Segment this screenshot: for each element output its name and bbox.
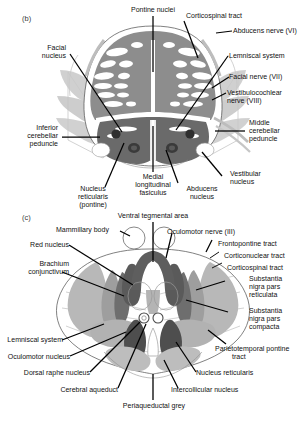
label-snpr-line2: nigra pars bbox=[249, 283, 280, 291]
label-snpr-line1: Substantia bbox=[249, 275, 282, 283]
label-snpc-line1: Substantia bbox=[249, 307, 282, 315]
label-inferior-cp-line2: cerebellar bbox=[0, 132, 58, 140]
label-mlf-line2: longitudinal bbox=[124, 181, 182, 189]
label-nucleus-reticularis-c: Nucleus reticularis bbox=[196, 369, 253, 377]
label-corticonuclear-tract: Corticonuclear tract bbox=[224, 252, 285, 260]
label-lemniscal-system-c: Lemniscal system bbox=[0, 336, 63, 344]
label-corticospinal-tract-b: Corticospinal tract bbox=[186, 12, 242, 20]
label-nucleus-reticularis-line3: (pontine) bbox=[66, 201, 120, 209]
label-middle-cp-line3: peduncle bbox=[249, 135, 277, 143]
label-abducens-nerve: Abducens nerve (VI) bbox=[233, 27, 297, 35]
label-nucleus-reticularis-line2: reticularis bbox=[66, 193, 120, 201]
label-abducens-nucleus-line2: nucleus bbox=[177, 193, 227, 201]
label-vestibulocochlear-nerve-line2: nerve (VIII) bbox=[227, 97, 262, 105]
label-cerebral-aqueduct: Cerebral aqueduct bbox=[0, 386, 118, 394]
label-facial-nucleus-line2: nucleus bbox=[6, 52, 66, 60]
label-middle-cp-line1: Middle bbox=[249, 119, 270, 127]
label-abducens-nucleus-line1: Abducens bbox=[177, 185, 227, 193]
label-vestibulocochlear-nerve-line1: Vestibulocochlear bbox=[227, 89, 282, 97]
label-facial-nerve: Facial nerve (VII) bbox=[229, 73, 282, 81]
label-red-nucleus: Red nucleus bbox=[6, 241, 69, 249]
label-facial-nucleus-line1: Facial bbox=[6, 44, 66, 52]
label-nucleus-reticularis-line1: Nucleus bbox=[66, 185, 120, 193]
label-inferior-cp-line3: peduncle bbox=[0, 140, 58, 148]
label-corticospinal-tract-c: Corticospinal tract bbox=[227, 264, 283, 272]
label-brachium-line2: conjunctivum bbox=[2, 268, 69, 276]
label-vestibular-nucleus-line2: nucleus bbox=[230, 178, 254, 186]
label-dorsal-raphe-nucleus: Dorsal raphe nucleus bbox=[0, 369, 90, 377]
label-periaqueductal-grey: Periaqueductal grey bbox=[106, 402, 202, 410]
panel-c-tag: (c) bbox=[22, 213, 31, 222]
label-oculomotor-nucleus: Oculomotor nucleus bbox=[0, 353, 70, 361]
label-middle-cp-line2: cerebellar bbox=[249, 127, 280, 135]
brainstem-figure: (b) bbox=[0, 0, 307, 426]
label-snpr-line3: reticulata bbox=[249, 291, 277, 299]
label-frontopontine-tract: Frontopontine tract bbox=[218, 240, 277, 248]
label-mlf-line3: fasiculus bbox=[124, 189, 182, 197]
label-intercollicular-nucleus: Intercollicular nucleus bbox=[171, 386, 238, 394]
facial-nucleus-shape bbox=[111, 129, 120, 138]
label-oculomotor-nerve: Oculomotor nerve (III) bbox=[167, 228, 235, 236]
label-parietotemporal-line2: tract bbox=[232, 353, 246, 361]
label-mlf-line1: Medial bbox=[124, 173, 182, 181]
label-pontine-nuclei: Pontine nuclei bbox=[113, 6, 193, 14]
label-inferior-cp-line1: Inferior bbox=[0, 124, 58, 132]
label-ventral-tegmental-area: Ventral tegmental area bbox=[105, 212, 201, 220]
label-lemniscal-system-b: Lemniscal system bbox=[229, 52, 285, 60]
label-parietotemporal-line1: Parietotemporal pontine bbox=[215, 345, 289, 353]
label-snpc-line3: compacta bbox=[249, 323, 279, 331]
label-vestibular-nucleus-line1: Vestibular bbox=[230, 170, 261, 178]
label-snpc-line2: nigra pars bbox=[249, 315, 280, 323]
label-brachium-line1: Brachium bbox=[2, 260, 69, 268]
label-mammillary-body: Mammillary body bbox=[56, 226, 109, 234]
